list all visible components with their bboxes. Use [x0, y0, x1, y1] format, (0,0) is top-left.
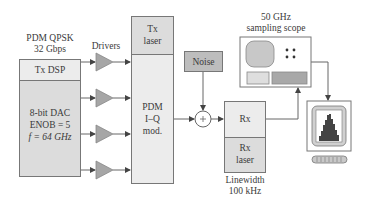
- noise-block: Noise: [184, 51, 223, 72]
- drivers-label: Drivers: [86, 41, 126, 52]
- modulator-line1: PDM: [132, 101, 173, 113]
- driver-icon: [96, 161, 113, 179]
- computer-monitor-icon: [307, 101, 351, 163]
- driver-icon: [96, 89, 113, 107]
- linewidth-label: Linewidth 100 kHz: [215, 175, 275, 197]
- signal-format-label: PDM QPSK 32 Gbps: [12, 33, 88, 55]
- tx-laser-modulator-block: Tx laser PDM I–Q mod.: [131, 16, 174, 184]
- modulator-line2: I–Q: [132, 113, 173, 125]
- rx-block: Rx Rx laser: [224, 101, 266, 173]
- linewidth-line1: Linewidth: [215, 175, 275, 186]
- driver-icon: [96, 53, 113, 71]
- signal-format-line2: 32 Gbps: [12, 44, 88, 55]
- scope-label: 50 GHz sampling scope: [235, 12, 317, 34]
- driver-icon: [96, 125, 113, 143]
- tx-dsp-block: Tx DSP 8-bit DAC ENOB = 5 f = 64 GHz: [19, 59, 81, 177]
- signal-format-line1: PDM QPSK: [12, 33, 88, 44]
- rx-label: Rx: [225, 113, 265, 125]
- modulator-line3: mod.: [132, 125, 173, 137]
- linewidth-line2: 100 kHz: [215, 186, 275, 197]
- dac-rate-label: f = 64 GHz: [20, 131, 80, 143]
- noise-label: Noise: [185, 56, 222, 68]
- sampling-scope-icon: [240, 37, 311, 87]
- dac-bits-label: 8-bit DAC: [20, 107, 80, 119]
- scope-line2: sampling scope: [235, 23, 317, 34]
- tx-dsp-label: Tx DSP: [20, 64, 80, 76]
- rx-laser-line2: laser: [225, 154, 265, 166]
- dac-enob-label: ENOB = 5: [20, 119, 80, 131]
- scope-line1: 50 GHz: [235, 12, 317, 23]
- adder-icon: [195, 111, 211, 127]
- tx-laser-line1: Tx: [132, 23, 173, 35]
- rx-laser-line1: Rx: [225, 142, 265, 154]
- driver-amplifiers: [96, 53, 113, 179]
- tx-laser-line2: laser: [132, 35, 173, 47]
